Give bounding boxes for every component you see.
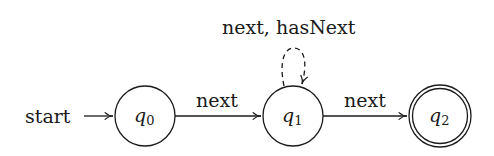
- transition-q1-q1-label: next, hasNext: [222, 16, 356, 38]
- transition-q0-q1-label: next: [196, 89, 238, 111]
- state-q2-label: q2: [429, 104, 449, 128]
- self-loop-q1-icon: [282, 48, 305, 86]
- start-label: start: [25, 105, 71, 127]
- state-q1[interactable]: q1: [263, 86, 323, 146]
- state-diagram: start q0 next q1 next, hasNext next q2: [0, 0, 494, 156]
- transition-q1-q2-label: next: [344, 89, 386, 111]
- state-q0[interactable]: q0: [115, 86, 175, 146]
- state-q1-label: q1: [282, 104, 302, 128]
- state-q0-label: q0: [134, 104, 154, 128]
- transition-q0-q1: next: [175, 89, 261, 116]
- transition-q1-q1: next, hasNext: [222, 16, 356, 86]
- transition-q1-q2: next: [323, 89, 407, 116]
- state-q2[interactable]: q2: [409, 85, 471, 147]
- start-indicator: start: [25, 105, 113, 127]
